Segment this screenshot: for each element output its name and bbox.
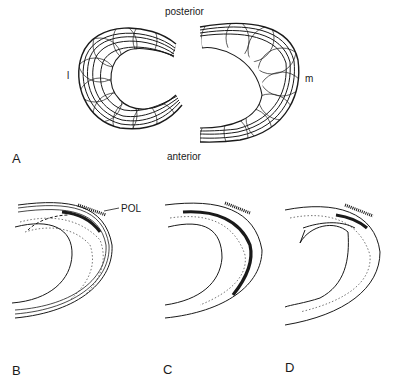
panel-label-d: D xyxy=(285,361,294,374)
panel-b-diagram xyxy=(12,203,119,318)
lateral-meniscus-diagram xyxy=(73,18,182,146)
panel-label-b: B xyxy=(12,364,21,377)
panel-d-diagram xyxy=(285,205,380,325)
label-anterior: anterior xyxy=(167,152,201,162)
label-lateral: l xyxy=(67,71,69,81)
medial-meniscus-diagram xyxy=(200,14,306,162)
panel-c-diagram xyxy=(165,203,262,318)
label-medial: m xyxy=(305,74,313,84)
figure-canvas xyxy=(0,0,394,382)
label-posterior: posterior xyxy=(165,7,204,17)
panel-label-c: C xyxy=(163,363,172,376)
label-pol: POL xyxy=(121,204,141,214)
panel-label-a: A xyxy=(12,152,21,165)
